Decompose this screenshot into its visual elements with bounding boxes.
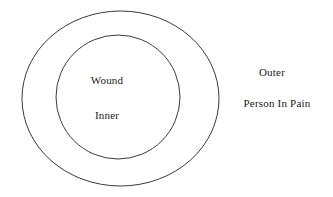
diagram-canvas: Wound Inner Outer Person In Pain [0,0,333,197]
inner-circle-shape [56,35,180,159]
label-outer: Outer [259,66,285,79]
outer-ellipse-shape [22,11,219,186]
label-person-in-pain: Person In Pain [244,97,311,110]
label-wound: Wound [91,74,124,87]
label-inner: Inner [95,109,119,122]
